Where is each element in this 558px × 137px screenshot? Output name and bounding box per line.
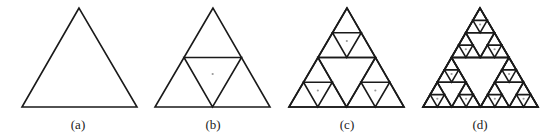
sierpinski-panel-d xyxy=(423,8,538,107)
panel-label-c: (c) xyxy=(327,117,367,133)
panel-label-a: (a) xyxy=(58,117,98,133)
panel-label-d: (d) xyxy=(460,117,500,133)
sierpinski-panel-b xyxy=(155,8,270,107)
sierpinski-panel-c xyxy=(289,8,404,107)
sierpinski-panel-a xyxy=(22,8,137,107)
panel-label-b: (b) xyxy=(193,117,233,133)
